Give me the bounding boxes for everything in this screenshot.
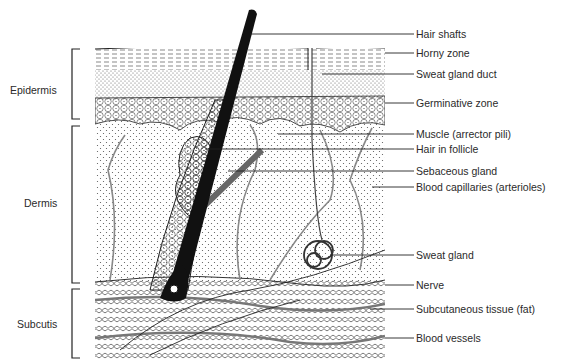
label-subcutaneous-tissue: Subcutaneous tissue (fat) [416,303,535,315]
label-blood-vessels: Blood vessels [416,332,481,344]
label-nerve: Nerve [416,279,444,291]
tissue-layers [95,46,385,360]
region-label-subcutis: Subcutis [17,318,57,330]
region-brackets [72,49,80,358]
label-blood-capillaries: Blood capillaries (arterioles) [416,181,546,193]
label-hair-in-follicle: Hair in follicle [416,143,478,155]
label-hair-shaft: Hair shafts [416,28,466,40]
label-sweat-gland-duct: Sweat gland duct [416,68,497,80]
label-muscle-arrector-pili: Muscle (arrector pili) [416,128,511,140]
label-sebaceous-gland: Sebaceous gland [416,165,497,177]
subcutaneous-fat-layer [95,278,385,360]
region-label-dermis: Dermis [24,197,57,209]
region-label-epidermis: Epidermis [10,84,57,96]
label-germinative-zone: Germinative zone [416,97,498,109]
label-sweat-gland: Sweat gland [416,249,474,261]
label-horny-zone: Horny zone [416,47,470,59]
